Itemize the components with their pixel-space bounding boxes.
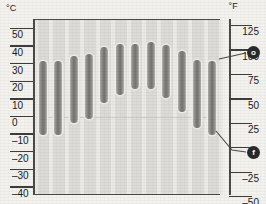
temperature-range-bar bbox=[70, 56, 78, 123]
temperature-range-bar bbox=[208, 61, 216, 135]
temperature-range-bar bbox=[116, 44, 124, 95]
temperature-range-bar bbox=[85, 54, 93, 119]
plot-stripe bbox=[173, 20, 177, 194]
left-axis-tick-label: 10 bbox=[12, 101, 23, 111]
plot-stripe bbox=[142, 20, 146, 194]
temperature-range-bar bbox=[178, 51, 186, 113]
plot-stripe bbox=[96, 20, 100, 194]
right-axis-tick-label: 125 bbox=[229, 27, 259, 37]
temperature-range-bar bbox=[54, 61, 62, 135]
left-axis-tick-label: –30 bbox=[12, 171, 29, 181]
left-axis-tick-label: 20 bbox=[12, 83, 23, 93]
left-axis-tick-label: 40 bbox=[12, 48, 23, 58]
plot-stripe bbox=[127, 20, 131, 194]
left-axis-line bbox=[33, 19, 35, 195]
temperature-range-bar bbox=[131, 44, 139, 90]
left-axis-tick-label: 30 bbox=[12, 66, 23, 76]
temperature-range-bar bbox=[193, 60, 201, 129]
left-axis-tick-label: –20 bbox=[12, 154, 29, 164]
plot-stripe bbox=[204, 20, 208, 194]
plot-stripe bbox=[80, 20, 84, 194]
left-axis-tick-label: 0 bbox=[12, 118, 18, 128]
temperature-range-bar bbox=[162, 45, 170, 98]
temperature-range-bar bbox=[147, 42, 155, 90]
right-axis-tick-label: 75 bbox=[229, 76, 259, 86]
right-axis-tick-label: 50 bbox=[229, 101, 259, 111]
plot-stripe bbox=[65, 20, 69, 194]
callout-badge-lower[interactable]: f bbox=[247, 146, 260, 159]
plot-stripe bbox=[188, 20, 192, 194]
right-axis-tick-label: 25 bbox=[229, 125, 259, 135]
plot-stripe bbox=[157, 20, 161, 194]
plot-stripe bbox=[111, 20, 115, 194]
right-axis-unit-label: °F bbox=[229, 1, 239, 11]
left-axis-tick-label: –10 bbox=[12, 136, 29, 146]
temperature-range-bar bbox=[39, 61, 47, 135]
right-axis-tick-label: –50 bbox=[229, 198, 259, 204]
zero-degree-line bbox=[36, 117, 219, 118]
left-axis-tick-label: –40 bbox=[12, 189, 29, 199]
right-axis-tick-label: –25 bbox=[229, 174, 259, 184]
plot-stripe bbox=[49, 20, 53, 194]
left-axis-tick-label: 50 bbox=[12, 30, 23, 40]
callout-badge-upper[interactable]: o bbox=[247, 46, 260, 59]
temperature-range-bar bbox=[100, 47, 108, 103]
plot-stripe bbox=[219, 20, 223, 194]
left-axis-unit-label: °C bbox=[6, 3, 17, 13]
